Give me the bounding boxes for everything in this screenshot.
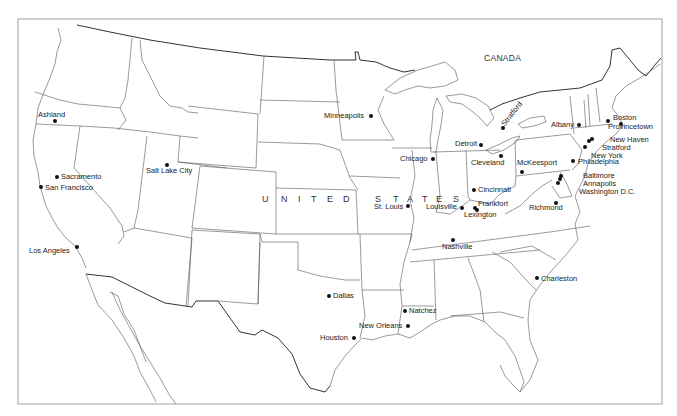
or-ca-nv-border — [36, 124, 198, 138]
city-marker-detroit — [479, 143, 483, 147]
pa-ny-border — [516, 134, 570, 140]
city-marker-cincinnati — [472, 188, 476, 192]
lake-superior — [385, 62, 458, 94]
city-marker-san-francisco — [39, 185, 43, 189]
ok-panhandle — [260, 234, 360, 280]
nm-box — [188, 230, 260, 306]
city-marker-chicago — [431, 157, 435, 161]
lake-michigan — [430, 98, 443, 152]
ia-mo-border — [350, 176, 400, 178]
mt-nd-border — [260, 56, 264, 114]
city-marker-minneapolis — [369, 114, 373, 118]
tn-south — [410, 250, 540, 262]
mexico-border — [86, 274, 330, 392]
city-label-cleveland: Cleveland — [471, 159, 504, 167]
pacific-coast — [33, 28, 86, 268]
city-label-louisville: Louisville — [426, 203, 457, 211]
city-label-charleston: Charleston — [541, 275, 577, 283]
city-marker-albany — [577, 123, 581, 127]
city-label-salt-lake-city: Salt Lake City — [146, 167, 192, 175]
al-ga-border — [468, 258, 484, 322]
vt-nh — [588, 94, 590, 126]
city-label-lexington: Lexington — [464, 211, 497, 219]
nv-az-border — [124, 228, 134, 232]
city-marker-new-york — [583, 145, 587, 149]
in-oh-border — [466, 150, 470, 200]
city-marker-houston — [352, 336, 356, 340]
us-letter-t: T — [311, 194, 317, 204]
city-marker-washington-d-c — [556, 181, 560, 185]
canada-border — [77, 25, 415, 72]
city-label-albany: Albany — [551, 121, 574, 129]
city-label-dallas: Dallas — [333, 292, 354, 300]
me-nh-border — [596, 88, 600, 122]
wa-id-border — [120, 38, 132, 108]
lake-ontario — [518, 116, 546, 128]
id-mt-border — [140, 40, 198, 113]
city-marker-new-orleans — [406, 324, 410, 328]
canada-label: CANADA — [484, 53, 521, 63]
us-letter-i: I — [298, 194, 301, 204]
us-letter-n: N — [281, 194, 288, 204]
tx-box — [258, 234, 365, 338]
city-label-mckeesport: McKeesport — [517, 159, 557, 167]
nd-mn-border — [334, 60, 342, 140]
baja-inner — [110, 292, 146, 362]
us-letter-u: U — [262, 194, 269, 204]
city-label-boston: Boston — [613, 114, 636, 122]
city-label-nashville: Nashville — [442, 243, 472, 251]
atlantic-coast — [520, 64, 660, 392]
ut-az-border — [134, 228, 192, 238]
us-letter-e: E — [327, 194, 333, 204]
city-marker-charleston — [535, 276, 539, 280]
city-marker-mckeesport — [520, 170, 524, 174]
city-label-natchez: Natchez — [409, 307, 437, 315]
city-label-cincinnati: Cincinnati — [478, 186, 511, 194]
city-label-st-louis: St. Louis — [374, 203, 403, 211]
map-outline-svg — [0, 0, 677, 416]
city-marker-philadelphia — [571, 159, 575, 163]
ne-ia-border — [340, 150, 358, 190]
city-marker-ashland — [53, 119, 57, 123]
lake-huron — [446, 94, 494, 126]
ks-mo-border — [356, 190, 358, 234]
city-marker-los-angeles — [75, 245, 79, 249]
ne-ks-border — [276, 188, 356, 190]
city-marker-sacramento — [55, 175, 59, 179]
city-label-washington-d-c: Washington D.C. — [579, 188, 635, 196]
city-label-philadelphia: Philadelphia — [578, 158, 619, 166]
city-label-detroit: Detroit — [455, 140, 477, 148]
city-label-houston: Houston — [320, 334, 348, 342]
sd-ne-border — [258, 142, 340, 150]
city-label-provincetown: Provincetown — [608, 123, 653, 131]
city-label-sacramento: Sacramento — [61, 173, 101, 181]
ky-tn-border — [412, 226, 590, 250]
wi-mn-border — [378, 96, 394, 140]
az-nm-border — [186, 238, 192, 306]
city-label-los-angeles: Los Angeles — [29, 247, 70, 255]
gulf-of-california — [112, 292, 176, 404]
ny-vt-ma — [570, 96, 612, 134]
city-label-ashland: Ashland — [38, 111, 65, 119]
city-label-new-orleans: New Orleans — [359, 322, 402, 330]
nv-ut-border — [134, 136, 147, 228]
us-map: CANADA U N I T E D S T A T E S AshlandMi… — [0, 0, 677, 416]
id-wy-ut — [178, 136, 227, 168]
city-marker-st-louis — [406, 204, 410, 208]
city-label-chicago: Chicago — [400, 155, 428, 163]
oh-pa-border — [515, 140, 516, 176]
mo-ar-border — [360, 234, 412, 242]
ga-fl-border — [450, 312, 524, 318]
or-id-border — [118, 108, 126, 130]
nd-sd-border — [260, 100, 340, 102]
us-letter-a: A — [407, 194, 413, 204]
us-letter-d: D — [343, 194, 350, 204]
wa-or-border — [35, 92, 120, 108]
map-frame — [18, 19, 662, 404]
city-label-minneapolis: Minneapolis — [324, 112, 364, 120]
city-label-frankfort: Frankfort — [478, 200, 508, 208]
city-label-san-francisco: San Francisco — [45, 184, 93, 192]
city-marker-stratford — [587, 139, 591, 143]
city-marker-dallas — [327, 294, 331, 298]
city-label-richmond: Richmond — [529, 204, 563, 212]
